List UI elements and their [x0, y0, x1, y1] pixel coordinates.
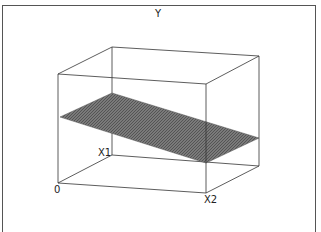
x2-axis-label: X2	[204, 194, 217, 205]
y-axis-label: Y	[154, 8, 162, 19]
regression-plane	[60, 93, 259, 163]
plot-3d: Y X1 0 X2	[0, 0, 321, 232]
origin-label: 0	[54, 184, 60, 195]
x1-axis-label: X1	[98, 147, 111, 158]
